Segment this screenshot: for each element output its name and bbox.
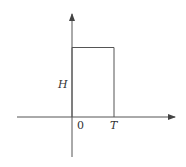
pulse-outline [72, 48, 114, 118]
end-label: T [110, 119, 119, 132]
pulse-diagram: H 0 T [0, 0, 186, 167]
height-label: H [57, 78, 68, 91]
origin-label: 0 [77, 119, 84, 132]
